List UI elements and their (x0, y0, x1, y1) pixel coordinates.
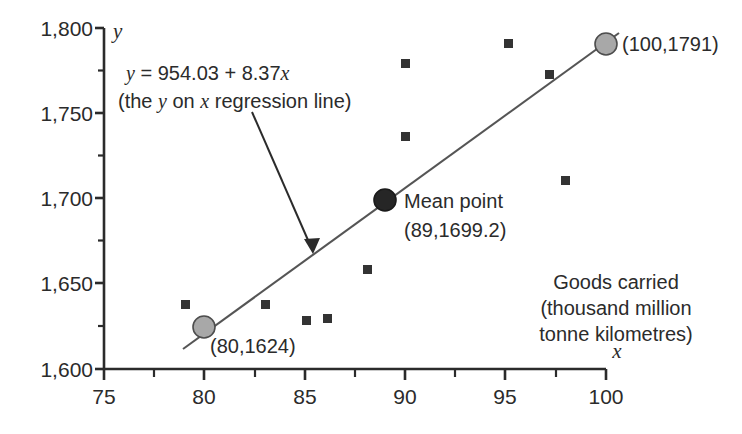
x-tick-label-85: 85 (293, 385, 316, 408)
axis-caption-line3: tonne kilometres) (539, 323, 692, 345)
axis-caption-line2: (thousand million (540, 297, 691, 319)
y-axis-major-ticks (95, 28, 104, 369)
x-tick-label-75: 75 (92, 385, 115, 408)
note-open: (the (118, 90, 158, 112)
mean-point-caption-line2: (89,1699.2) (404, 219, 506, 241)
y-tick-label-1700: 1,700 (40, 187, 93, 210)
x-tick-label-90: 90 (393, 385, 416, 408)
scatter-plot-svg: 1,800 1,750 1,700 1,650 1,600 75 80 85 9… (0, 0, 742, 434)
x-tick-label-95: 95 (493, 385, 516, 408)
data-point (561, 176, 570, 185)
equation-rhs-var: x (280, 62, 290, 84)
data-point (545, 70, 554, 79)
y-tick-label-1750: 1,750 (40, 102, 93, 125)
upper-line-point-label: (100,1791) (622, 33, 719, 55)
data-point (504, 39, 513, 48)
y-tick-label-1600: 1,600 (40, 358, 93, 381)
note-y: y (156, 90, 167, 113)
axis-caption-line1: Goods carried (553, 271, 679, 293)
regression-scatter-figure: 1,800 1,750 1,700 1,650 1,600 75 80 85 9… (0, 0, 742, 434)
data-point (181, 300, 190, 309)
data-point (363, 265, 372, 274)
data-point (261, 300, 270, 309)
y-tick-label-1800: 1,800 (40, 17, 93, 40)
note-on: on (167, 90, 200, 112)
data-point (302, 316, 311, 325)
x-tick-label-80: 80 (192, 385, 215, 408)
y-axis-label: y (111, 19, 123, 43)
equation-rhs: 954.03 + 8.37 (158, 62, 281, 84)
lower-line-point-label: (80,1624) (210, 335, 296, 357)
x-tick-label-100: 100 (588, 385, 623, 408)
regression-equation-note: (the y on x regression line) (118, 90, 351, 113)
equation-sign: = (140, 62, 152, 84)
regression-equation: y = 954.03 + 8.37x (124, 62, 290, 85)
data-point (401, 132, 410, 141)
note-x: x (199, 90, 209, 112)
mean-point-marker (374, 189, 396, 211)
equation-lhs: y (124, 62, 135, 85)
note-close: regression line) (209, 90, 351, 112)
mean-point-caption-line1: Mean point (404, 190, 503, 212)
y-tick-label-1650: 1,650 (40, 272, 93, 295)
data-point (401, 59, 410, 68)
upper-line-point-marker (595, 33, 617, 55)
equation-pointer-arrow (252, 112, 320, 254)
data-point (323, 314, 332, 323)
